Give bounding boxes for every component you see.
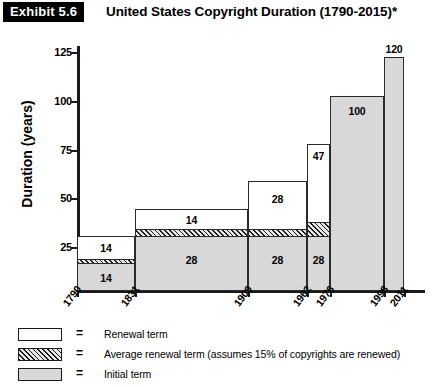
bar-label-initial: 14 — [77, 272, 135, 284]
legend-equals-sign: = — [76, 326, 83, 340]
y-tick-label-50: 50 — [38, 192, 72, 204]
x-tick-label-1790: 1790 — [60, 283, 83, 308]
y-axis-title: Duration (years) — [19, 79, 35, 229]
legend-label-initial-term: Initial term — [104, 368, 151, 380]
bar-label-initial: 120 — [379, 43, 409, 55]
bar-segment-initial — [384, 57, 404, 291]
bar-segment-average-renewal — [135, 229, 248, 237]
bar-label-renewal: 14 — [135, 214, 248, 226]
y-tick-label-100: 100 — [38, 95, 72, 107]
bar-label-initial: 28 — [135, 254, 248, 266]
bar-label-initial: 28 — [248, 254, 307, 266]
legend-swatch-renewal-term — [18, 328, 62, 341]
bar-label-initial: 100 — [330, 105, 384, 117]
y-tick-label-75: 75 — [38, 144, 72, 156]
chart-legend: = Renewal term = Average renewal term (a… — [0, 326, 437, 387]
legend-label-renewal-term: Renewal term — [104, 328, 168, 340]
legend-equals-sign: = — [76, 346, 83, 360]
bar-label-renewal: 47 — [307, 150, 330, 162]
y-tick-label-125: 125 — [38, 46, 72, 58]
bar-label-renewal: 14 — [77, 242, 135, 254]
page-title: United States Copyright Duration (1790-2… — [106, 4, 397, 19]
bar-segment-initial — [330, 96, 384, 291]
bar-segment-renewal — [248, 181, 307, 230]
y-tick-label-25: 25 — [38, 241, 72, 253]
chart-plot-area: Duration (years) 125 100 75 50 25 14 14 … — [0, 26, 437, 322]
bar-segment-average-renewal — [307, 222, 330, 237]
legend-swatch-initial-term — [18, 368, 62, 381]
bar-label-renewal: 28 — [248, 193, 307, 205]
exhibit-number-badge: Exhibit 5.6 — [3, 2, 84, 22]
exhibit-header: Exhibit 5.6 United States Copyright Dura… — [0, 0, 437, 26]
bar-segment-average-renewal — [248, 229, 307, 237]
bar-label-initial: 28 — [307, 254, 330, 266]
legend-swatch-average-renewal-term — [18, 348, 62, 361]
legend-label-average-renewal-term: Average renewal term (assumes 15% of cop… — [104, 348, 400, 360]
legend-equals-sign: = — [76, 366, 83, 380]
